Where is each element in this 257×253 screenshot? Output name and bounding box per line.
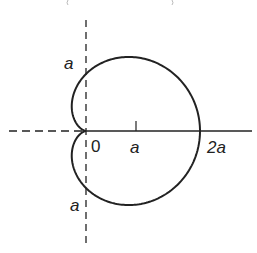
cardioid-diagram: a 0 a 2a a bbox=[0, 0, 257, 253]
label-origin: 0 bbox=[91, 137, 100, 156]
label-y-bottom: a bbox=[70, 196, 79, 215]
label-y-top: a bbox=[64, 54, 73, 73]
cropped-text-fragment bbox=[67, 0, 68, 5]
label-x-2a: 2a bbox=[206, 138, 226, 157]
cropped-text-fragment bbox=[172, 0, 173, 5]
label-x-a: a bbox=[130, 138, 139, 157]
